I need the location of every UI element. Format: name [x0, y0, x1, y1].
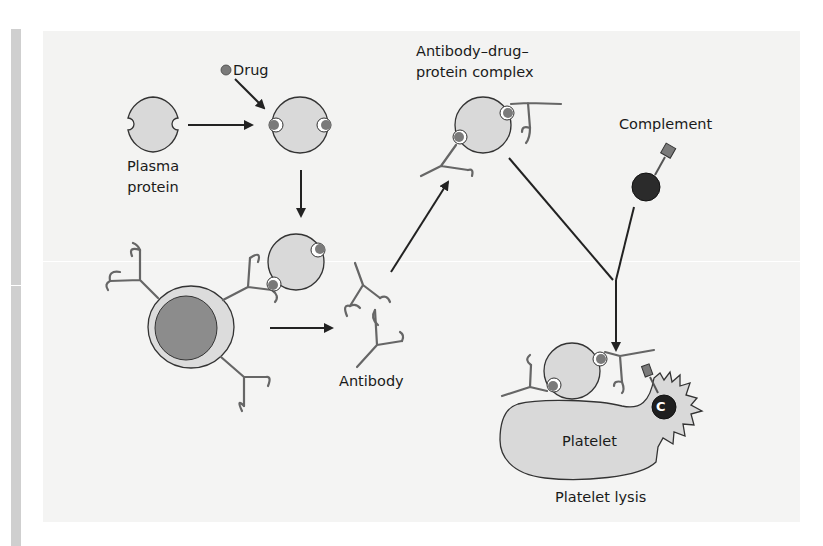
- complement-label: Complement: [619, 113, 712, 135]
- antibody-icon: [345, 263, 403, 367]
- platelet-lysis-label: Platelet lysis: [555, 486, 646, 508]
- platelet-bound-protein-icon: [544, 343, 607, 399]
- drug-protein-bound-icon: [269, 97, 331, 153]
- plasma-protein-label-line1: Plasma: [117, 155, 189, 177]
- platelet-label: Platelet: [562, 430, 617, 452]
- complement-c-marker: C: [656, 396, 666, 418]
- arrow-drug-to-bound: [235, 79, 264, 108]
- plasma-protein-label-line2: protein: [117, 176, 189, 198]
- complement-icon: [632, 143, 676, 201]
- plasma-protein-icon: [128, 97, 178, 152]
- arrow-antibody-to-complex: [391, 182, 448, 272]
- line-complex-to-junction: [509, 158, 613, 280]
- line-complement-to-junction: [616, 207, 634, 280]
- antibody-drug-protein-complex-icon: [453, 97, 514, 153]
- receptor-bound-protein-icon: [267, 234, 325, 291]
- complex-label-line1: Antibody–drug–: [416, 40, 529, 62]
- antibody-label: Antibody: [339, 370, 404, 392]
- b-cell-icon: [148, 286, 234, 368]
- drug-icon: [221, 65, 231, 75]
- complex-label-line2: protein complex: [416, 61, 534, 83]
- drug-label: Drug: [233, 59, 269, 81]
- diagram-canvas: [0, 0, 823, 546]
